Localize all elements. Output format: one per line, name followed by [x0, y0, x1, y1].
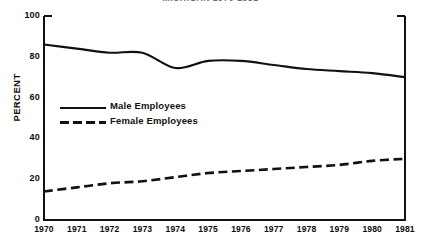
- axis-frame: [44, 16, 405, 220]
- legend-key-solid-icon: [60, 107, 106, 109]
- legend-label-female: Female Employees: [110, 115, 198, 126]
- chart-root: MICHIGAN 1970-1981 PERCENT 100 80 60 40 …: [0, 0, 421, 246]
- x-axis-tick-labels: 1970197119721973197419751976197719781979…: [0, 224, 421, 242]
- x-tick-label: 1981: [385, 224, 421, 234]
- legend-label-male: Male Employees: [110, 100, 186, 111]
- series-line-female: [44, 159, 405, 192]
- series-line-male: [44, 45, 405, 78]
- legend-key-dashed-icon: [60, 121, 106, 124]
